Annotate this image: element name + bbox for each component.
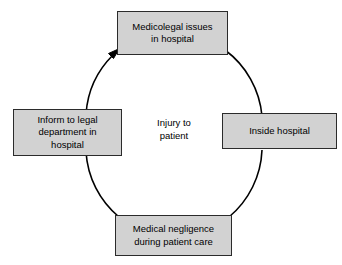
cycle-diagram: Medicolegal issues in hospital Inside ho… — [0, 0, 342, 265]
node-bottom-label: Medical negligence during patient care — [133, 223, 214, 248]
node-inform-to-legal-department-in-hospital[interactable]: Inform to legal department in hospital — [13, 109, 122, 156]
arc-bottom-left — [86, 152, 119, 217]
arc-right-bottom — [229, 150, 262, 217]
node-medicolegal-issues-in-hospital[interactable]: Medicolegal issues in hospital — [117, 11, 228, 55]
node-right-label: Inside hospital — [249, 125, 310, 138]
node-inside-hospital[interactable]: Inside hospital — [222, 113, 337, 149]
node-top-label: Medicolegal issues in hospital — [132, 21, 212, 46]
node-medical-negligence-during-patient-care[interactable]: Medical negligence during patient care — [115, 215, 232, 256]
node-left-label: Inform to legal department in hospital — [37, 114, 97, 152]
arc-top-right — [225, 50, 262, 116]
center-label-injury-to-patient: Injury to patient — [134, 117, 214, 142]
arc-left-top — [86, 55, 113, 114]
